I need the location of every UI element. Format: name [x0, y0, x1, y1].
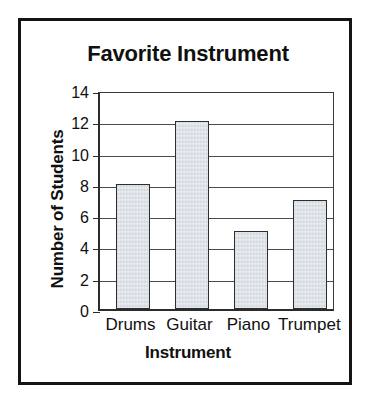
y-axis-tick: [93, 281, 100, 282]
x-axis-tick-label-drums: Drums: [101, 315, 160, 335]
bar-texture: [235, 232, 267, 308]
bar-texture: [117, 185, 149, 308]
x-axis-tick-label-piano: Piano: [219, 315, 278, 335]
bar-piano: [234, 231, 268, 309]
gridline: [100, 156, 333, 157]
bar-texture: [176, 122, 208, 308]
plot-area: 02468101214: [98, 92, 334, 311]
y-axis-tick-label: 0: [80, 303, 89, 321]
y-axis-tick-label: 12: [71, 115, 89, 133]
y-axis-tick: [93, 156, 100, 157]
y-axis-tick: [93, 124, 100, 125]
bar-texture: [294, 201, 326, 309]
y-axis-tick: [93, 93, 100, 94]
y-axis-tick-label: 14: [71, 84, 89, 102]
gridline: [100, 124, 333, 125]
y-axis-tick: [93, 218, 100, 219]
y-axis-tick: [93, 249, 100, 250]
x-axis-tick-label-trumpet: Trumpet: [278, 315, 337, 335]
y-axis-tick-label: 4: [80, 240, 89, 258]
y-axis-tick-label: 6: [80, 209, 89, 227]
y-axis-tick-label: 2: [80, 272, 89, 290]
y-axis-tick: [93, 187, 100, 188]
y-axis-tick-label: 10: [71, 147, 89, 165]
bar-guitar: [175, 121, 209, 309]
bar-trumpet: [293, 200, 327, 310]
x-axis-tick-label-guitar: Guitar: [160, 315, 219, 335]
bar-drums: [116, 184, 150, 309]
y-axis-tick: [93, 312, 100, 313]
y-axis-tick-label: 8: [80, 178, 89, 196]
x-axis-title: Instrument: [21, 343, 355, 363]
chart-title: Favorite Instrument: [21, 41, 355, 67]
y-axis-title: Number of Students: [48, 109, 68, 309]
chart-frame: Favorite Instrument Number of Students 0…: [18, 18, 352, 385]
